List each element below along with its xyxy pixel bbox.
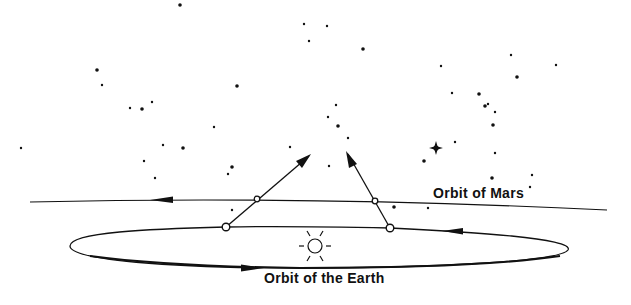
star-icon [531,174,533,176]
star-icon [162,144,164,146]
sightline-2-arrowhead-icon [346,151,357,168]
earth-position-2 [386,224,394,232]
star-icon [422,159,426,163]
sun-icon [299,231,331,261]
star-icon [95,68,99,72]
star-icon [303,23,305,25]
star-icon [308,40,310,42]
star-icon [140,107,144,111]
star-icon [510,54,512,56]
star-icon [230,165,234,169]
star-icon [178,3,182,7]
star-icon [347,137,349,139]
sightline-1 [226,156,309,227]
star-icon [336,124,340,128]
star-icon [427,207,429,209]
star-icon [490,176,494,180]
star-icon [335,104,337,106]
star-icon [487,103,489,105]
mars-orbit-path [30,200,607,210]
star-icon [454,141,456,143]
star-icon [129,107,131,109]
star-icon [327,116,329,118]
mars-position-1 [254,196,260,202]
star-icon [213,126,215,128]
star-icon [20,147,22,149]
star-icon [361,47,365,51]
earth-orbit-bottom-thick [90,256,560,268]
diagram-canvas [0,0,631,305]
star-icon [235,84,239,88]
star-icon [491,123,495,127]
earth-orbit-arrow-top-icon [442,228,463,235]
star-icon [440,65,442,67]
star-icon [101,84,103,86]
star-icon [181,146,185,150]
star-icon [326,25,328,27]
mars-orbit-arrow-icon [150,197,173,204]
star-icon [555,64,557,66]
earth-orbit-arrow-bottom-icon [241,265,264,272]
earth-position-1 [222,223,230,231]
star-icon [529,186,531,188]
star-icon [494,111,496,113]
mars-position-2 [372,198,378,204]
star-icon [451,92,453,94]
star-icon [477,92,481,96]
star-icon [231,209,233,211]
star-icon [392,205,396,209]
star-icon [154,177,156,179]
star-icon [143,160,145,162]
four-point-star-icon [429,141,443,155]
star-icon [227,173,229,175]
star-icon [494,152,496,154]
star-field [20,3,557,211]
earth-orbit-label: Orbit of the Earth [264,270,385,286]
star-icon [328,165,330,167]
star-icon [483,104,487,108]
star-icon [151,101,153,103]
mars-orbit-label: Orbit of Mars [433,185,524,201]
star-icon [515,75,519,79]
star-icon [289,146,291,148]
